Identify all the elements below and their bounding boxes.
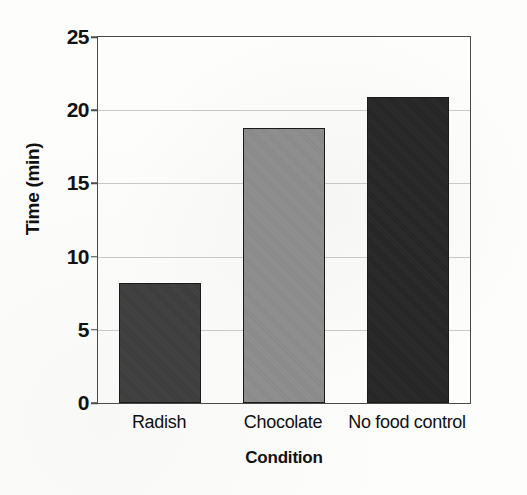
bar-texture <box>120 284 200 402</box>
y-axis-tick-label: 15 <box>43 171 98 195</box>
x-axis-category-label: No food control <box>345 412 469 433</box>
chart-figure: Time (min) 0510152025 Condition RadishCh… <box>0 0 527 495</box>
x-axis-title: Condition <box>97 448 471 468</box>
y-axis-tick-label: 20 <box>43 98 98 122</box>
plot-area: 0510152025 <box>97 36 471 404</box>
bar-chocolate[interactable] <box>243 128 325 403</box>
y-axis-tick-label: 0 <box>43 391 98 415</box>
y-axis-tick-label: 10 <box>43 245 98 269</box>
bar-radish[interactable] <box>119 283 201 403</box>
y-axis-tick-label: 5 <box>43 318 98 342</box>
x-axis-category-label: Radish <box>97 412 221 433</box>
bar-texture <box>244 129 324 402</box>
bar-texture <box>368 98 448 402</box>
bar-no-food-control[interactable] <box>367 97 449 403</box>
y-axis-title: Time (min) <box>22 109 44 269</box>
x-axis-category-label: Chocolate <box>221 412 345 433</box>
y-axis-tick-label: 25 <box>43 25 98 49</box>
